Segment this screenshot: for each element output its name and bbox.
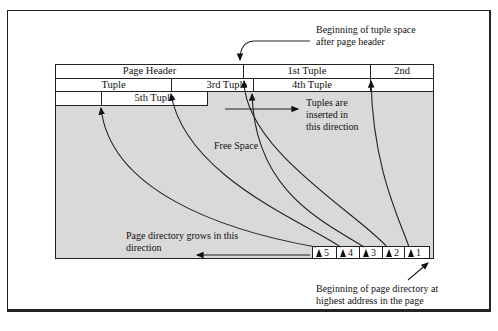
directory-begin-arrow <box>408 263 428 280</box>
pointer-2 <box>244 81 387 247</box>
pointer-1 <box>371 81 409 247</box>
pointer-3 <box>252 94 364 247</box>
pointer-4 <box>171 94 341 247</box>
arrows-layer <box>0 0 498 331</box>
pointer-5 <box>101 108 316 247</box>
tuple-space-arrow <box>240 41 310 60</box>
